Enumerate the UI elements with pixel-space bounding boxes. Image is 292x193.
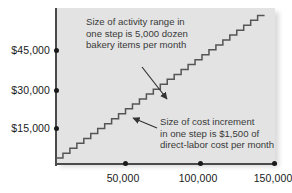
step-cost-chart: $45,000 $30,000 $15,000 50,000 100,000 1… — [0, 0, 292, 193]
annotation-cost-arrow — [133, 118, 157, 128]
step-cost-line — [56, 15, 265, 163]
chart-vector-overlay — [0, 0, 292, 193]
